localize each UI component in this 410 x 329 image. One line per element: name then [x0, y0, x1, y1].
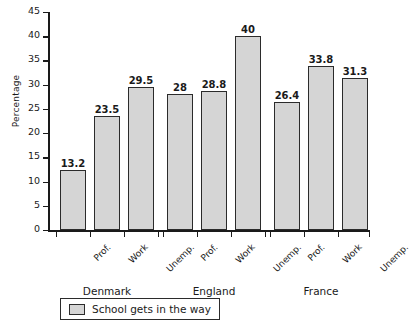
y-tick-label-10: 10	[28, 175, 40, 187]
x-label-denmark-unemp: Unemp.	[164, 242, 196, 274]
group-label-denmark: Denmark	[83, 285, 131, 297]
y-axis-line	[48, 12, 50, 230]
bar-france-prof: 26.4	[274, 102, 300, 230]
bar-value-england-prof: 28	[173, 82, 187, 93]
bar-value-denmark-prof: 13.2	[61, 158, 86, 169]
y-tick-label-5: 5	[34, 199, 40, 211]
bar-england-unemp: 40	[235, 36, 261, 230]
bar-value-denmark-unemp: 29.5	[129, 75, 154, 86]
y-tick-0: 0	[43, 230, 48, 231]
bar-value-denmark-work: 23.5	[95, 104, 120, 115]
x-tick-7	[265, 231, 266, 237]
y-tick-15: 15	[43, 157, 48, 158]
x-tick-4	[163, 231, 164, 237]
x-label-england-prof: Prof.	[199, 242, 220, 263]
x-tick-9	[304, 231, 305, 237]
x-tick-10	[338, 231, 339, 237]
x-label-denmark-prof: Prof.	[92, 242, 113, 263]
bar-value-england-unemp: 40	[241, 24, 255, 35]
y-tick-25: 25	[43, 109, 48, 110]
x-tick-1	[90, 231, 91, 237]
x-axis-line	[48, 230, 370, 232]
bar-denmark-unemp: 29.5	[128, 87, 154, 230]
y-tick-5: 5	[43, 206, 48, 207]
bar-england-prof: 28	[167, 94, 193, 230]
y-tick-10: 10	[43, 182, 48, 183]
group-label-england: England	[193, 285, 236, 297]
y-tick-45: 45	[43, 12, 48, 13]
y-tick-label-40: 40	[28, 29, 40, 41]
legend-swatch-icon	[69, 304, 85, 315]
y-axis-title: Percentage	[11, 61, 21, 141]
x-tick-0	[56, 231, 57, 237]
x-tick-6	[231, 231, 232, 237]
y-tick-label-20: 20	[28, 126, 40, 138]
x-tick-3	[158, 231, 159, 237]
y-tick-30: 30	[43, 85, 48, 86]
bar-value-france-work: 33.8	[309, 54, 334, 65]
y-tick-label-45: 45	[28, 5, 40, 17]
x-tick-2	[124, 231, 125, 237]
x-label-england-work: Work	[234, 242, 257, 265]
y-tick-label-15: 15	[28, 150, 40, 162]
x-tick-11	[369, 231, 370, 237]
group-label-france: France	[304, 285, 339, 297]
x-label-france-unemp: Unemp.	[378, 242, 410, 274]
y-tick-40: 40	[43, 36, 48, 37]
bar-denmark-work: 23.5	[94, 116, 120, 230]
x-label-france-work: Work	[341, 242, 364, 265]
x-label-england-unemp: Unemp.	[271, 242, 303, 274]
bar-value-france-prof: 26.4	[275, 90, 300, 101]
bar-value-england-work: 28.8	[202, 79, 227, 90]
y-tick-20: 20	[43, 133, 48, 134]
x-label-france-prof: Prof.	[306, 242, 327, 263]
y-tick-35: 35	[43, 60, 48, 61]
bar-france-work: 33.8	[308, 66, 334, 230]
y-tick-label-30: 30	[28, 78, 40, 90]
y-tick-label-25: 25	[28, 102, 40, 114]
bar-england-work: 28.8	[201, 91, 227, 231]
y-tick-label-35: 35	[28, 53, 40, 65]
x-tick-5	[197, 231, 198, 237]
bar-france-unemp: 31.3	[342, 78, 368, 230]
x-tick-8	[270, 231, 271, 237]
y-tick-label-0: 0	[34, 223, 40, 235]
x-label-denmark-work: Work	[127, 242, 150, 265]
bar-denmark-prof: 13.2	[60, 170, 86, 230]
chart-legend: School gets in the way	[60, 298, 220, 320]
bar-value-france-unemp: 31.3	[343, 66, 368, 77]
plot-area: 45 40 35 30 25 20 15 10 5 0	[48, 10, 370, 232]
legend-label: School gets in the way	[92, 303, 211, 315]
